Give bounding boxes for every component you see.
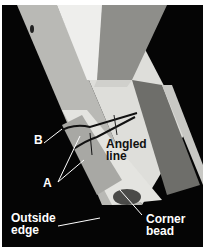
label-b: B xyxy=(34,134,43,146)
label-corner-bead: Corner bead xyxy=(146,213,185,237)
label-a: A xyxy=(43,177,52,189)
figure: B A Angled line Outside edge Corner bead xyxy=(0,0,206,249)
label-outside-edge: Outside edge xyxy=(11,212,56,236)
label-angled-line: Angled line xyxy=(106,138,147,162)
